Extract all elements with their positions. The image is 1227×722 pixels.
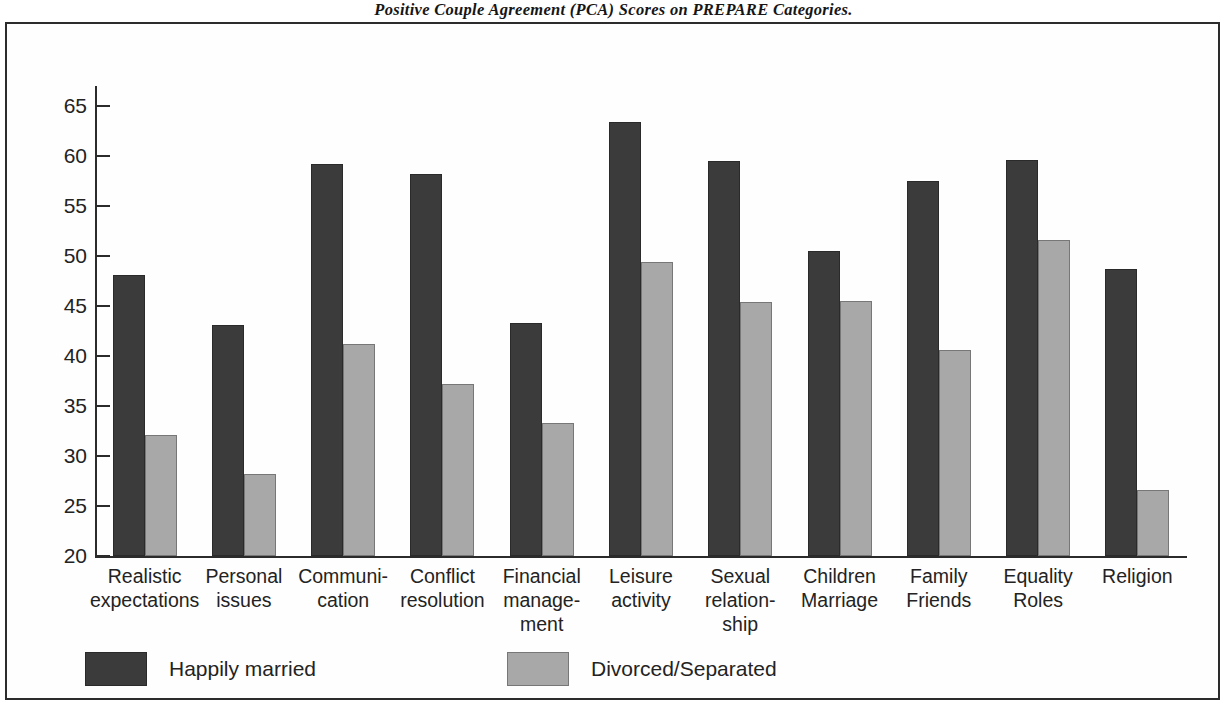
y-axis-tick-label: 40	[25, 345, 87, 366]
chart-frame: 20253035404550556065 Realistic expectati…	[5, 22, 1220, 700]
bar-happily-married[interactable]	[907, 181, 939, 556]
bar-happily-married[interactable]	[1006, 160, 1038, 556]
x-axis-tick-label: Communi- cation	[286, 564, 401, 612]
x-axis-tick-label: Children Marriage	[782, 564, 897, 612]
bar-happily-married[interactable]	[410, 174, 442, 556]
legend-item-happily-married: Happily married	[85, 652, 316, 686]
bar-happily-married[interactable]	[808, 251, 840, 556]
bar-group	[113, 86, 177, 556]
bar-happily-married[interactable]	[609, 122, 641, 556]
y-axis-tick-label: 30	[25, 445, 87, 466]
bar-divorced-separated[interactable]	[145, 435, 177, 556]
legend-swatch-happily-married	[85, 652, 147, 686]
chart-legend: Happily married Divorced/Separated	[7, 652, 1222, 696]
bars-layer	[95, 86, 1187, 556]
x-axis-tick-label: Religion	[1080, 564, 1195, 588]
bar-group	[609, 86, 673, 556]
x-axis-tick-label: Personal issues	[186, 564, 301, 612]
x-axis-tick-label: Conflict resolution	[385, 564, 500, 612]
bar-group	[212, 86, 276, 556]
bar-happily-married[interactable]	[1105, 269, 1137, 556]
bar-divorced-separated[interactable]	[244, 474, 276, 556]
x-axis-tick-label: Equality Roles	[980, 564, 1095, 612]
y-axis-tick-label: 60	[25, 145, 87, 166]
x-axis-tick-label: Financial manage- ment	[484, 564, 599, 636]
bar-happily-married[interactable]	[311, 164, 343, 556]
x-axis-tick-label: Leisure activity	[583, 564, 698, 612]
bar-group	[510, 86, 574, 556]
bar-divorced-separated[interactable]	[939, 350, 971, 556]
bar-divorced-separated[interactable]	[1137, 490, 1169, 556]
plot-area: 20253035404550556065 Realistic expectati…	[7, 24, 1222, 702]
x-axis-line	[95, 556, 1187, 558]
bar-group	[1006, 86, 1070, 556]
bar-group	[1105, 86, 1169, 556]
legend-label-happily-married: Happily married	[169, 657, 316, 681]
bar-happily-married[interactable]	[510, 323, 542, 556]
bar-divorced-separated[interactable]	[442, 384, 474, 556]
bar-happily-married[interactable]	[708, 161, 740, 556]
bar-divorced-separated[interactable]	[740, 302, 772, 556]
bar-divorced-separated[interactable]	[840, 301, 872, 556]
y-axis-tick-label: 35	[25, 395, 87, 416]
y-axis-tick-label: 65	[25, 95, 87, 116]
bar-happily-married[interactable]	[212, 325, 244, 556]
bar-group	[311, 86, 375, 556]
bar-group	[708, 86, 772, 556]
x-axis-tick-label: Family Friends	[881, 564, 996, 612]
y-axis-tick-label: 55	[25, 195, 87, 216]
bar-divorced-separated[interactable]	[343, 344, 375, 556]
x-axis-tick-label: Sexual relation- ship	[683, 564, 798, 636]
bar-divorced-separated[interactable]	[542, 423, 574, 556]
x-axis-tick-label: Realistic expectations	[87, 564, 202, 612]
y-axis-tick-label: 20	[25, 545, 87, 566]
legend-item-divorced-separated: Divorced/Separated	[507, 652, 777, 686]
bar-group	[907, 86, 971, 556]
bar-divorced-separated[interactable]	[1038, 240, 1070, 556]
bar-group	[808, 86, 872, 556]
y-axis-tick-label: 25	[25, 495, 87, 516]
figure-title: Positive Couple Agreement (PCA) Scores o…	[0, 0, 1227, 20]
y-axis-tick-label: 50	[25, 245, 87, 266]
bar-happily-married[interactable]	[113, 275, 145, 556]
legend-swatch-divorced-separated	[507, 652, 569, 686]
y-axis-tick-label: 45	[25, 295, 87, 316]
bar-divorced-separated[interactable]	[641, 262, 673, 556]
bar-group	[410, 86, 474, 556]
legend-label-divorced-separated: Divorced/Separated	[591, 657, 777, 681]
